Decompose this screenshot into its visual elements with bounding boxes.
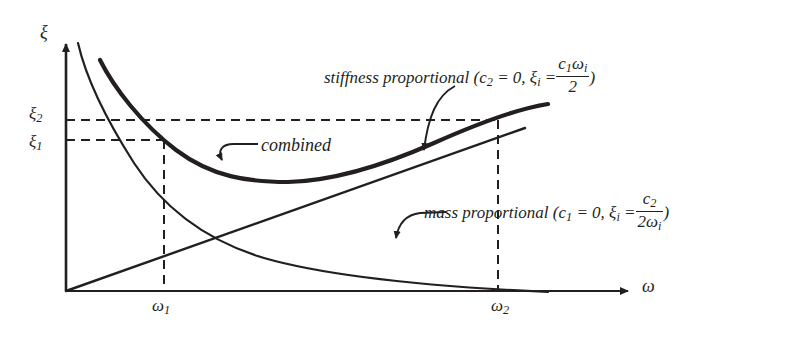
x-tick-omega1-symbol: ω [152, 296, 164, 315]
annotation-mass-prefix: mass proportional (c [424, 203, 566, 222]
x-axis-label: ω [642, 276, 655, 297]
annotation-stiffness-numerator-omega: ω [572, 54, 584, 73]
x-tick-omega1-subscript: 1 [164, 303, 170, 317]
leader-combined [220, 144, 258, 160]
x-tick-omega2-subscript: 2 [503, 303, 509, 317]
annotation-combined: combined [261, 135, 331, 156]
annotation-mass-suffix: ) [663, 203, 669, 222]
leader-group [220, 86, 455, 238]
annotation-stiffness-suffix: ) [589, 68, 595, 87]
annotation-mass-denominator-subscript: i [658, 219, 661, 233]
figure-damping-ratio-vs-frequency: ξ ω ξ2 ξ1 ω1 ω2 combined stiffness propo… [0, 0, 800, 339]
annotation-stiffness-mid: = 0, ξ [493, 68, 537, 87]
y-axis-label: ξ [40, 22, 48, 43]
annotation-mass-equals: = [620, 203, 636, 222]
annotation-stiffness-denominator: 2 [556, 77, 589, 95]
annotation-mass-mid: = 0, ξ [572, 203, 616, 222]
annotation-stiffness-numerator-c: c [558, 54, 566, 73]
annotation-stiffness-numerator: c1ωi [556, 55, 589, 77]
figure-canvas [0, 0, 800, 339]
x-tick-omega1: ω1 [152, 296, 170, 318]
annotation-stiffness-proportional: stiffness proportional (c2 = 0, ξi =c1ωi… [324, 55, 595, 95]
annotation-mass-numerator: c2 [636, 190, 664, 212]
annotation-mass-numerator-c-subscript: 2 [650, 196, 656, 210]
annotation-mass-fraction: c22ωi [636, 190, 664, 233]
annotation-stiffness-numerator-omega-subscript: i [584, 61, 587, 75]
x-tick-omega2: ω2 [491, 296, 509, 318]
y-tick-xi1: ξ1 [29, 132, 42, 154]
y-tick-xi2: ξ2 [29, 104, 42, 126]
annotation-mass-denominator-main: 2ω [638, 212, 659, 231]
y-tick-xi2-subscript: 2 [36, 111, 42, 125]
x-tick-omega2-symbol: ω [491, 296, 503, 315]
annotation-stiffness-prefix: stiffness proportional (c [324, 68, 487, 87]
annotation-mass-proportional: mass proportional (c1 = 0, ξi =c22ωi) [424, 190, 669, 233]
y-tick-xi1-subscript: 1 [36, 139, 42, 153]
annotation-stiffness-fraction: c1ωi2 [556, 55, 589, 95]
annotation-mass-denominator: 2ωi [636, 212, 664, 233]
annotation-stiffness-equals: = [541, 68, 557, 87]
